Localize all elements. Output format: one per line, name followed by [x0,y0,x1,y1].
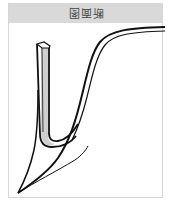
outer-profile-inner-line [72,31,165,140]
tail-curve [18,90,38,193]
cross-section-drawing [0,0,172,205]
rib-top-cap [37,42,50,48]
